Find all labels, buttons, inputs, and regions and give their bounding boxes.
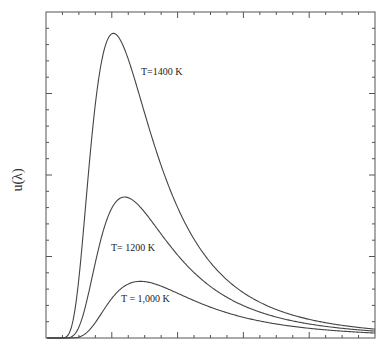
curve-label-1000k: T = 1,000 K (121, 293, 170, 304)
curves (47, 33, 375, 338)
plot-frame (46, 12, 375, 338)
curve-1400k (47, 33, 375, 338)
axis-ticks (46, 12, 375, 338)
y-axis-label: u(λ) (10, 165, 30, 195)
chart (0, 0, 379, 356)
curve-label-1400k: T=1400 K (141, 66, 182, 77)
curve-1000k (47, 281, 375, 338)
curve-label-1200k: T= 1200 K (111, 242, 155, 253)
curve-1200k (47, 197, 375, 338)
